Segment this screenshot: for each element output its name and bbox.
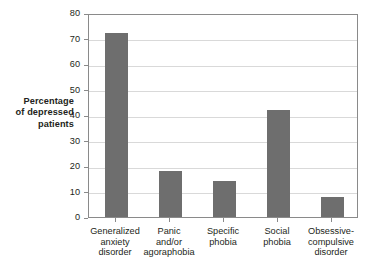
bar	[159, 171, 182, 217]
x-axis-category-label-line: compulsive	[294, 237, 368, 248]
y-tick-label: 50	[54, 86, 80, 95]
y-tick-label: 0	[54, 213, 80, 222]
y-tick-label: 70	[54, 35, 80, 44]
x-tick-mark	[277, 218, 278, 222]
x-tick-mark	[223, 218, 224, 222]
y-tick-mark	[84, 39, 88, 40]
plot-area	[88, 14, 358, 218]
y-tick-mark	[84, 116, 88, 117]
y-tick-label: 10	[54, 188, 80, 197]
y-tick-label: 20	[54, 162, 80, 171]
y-tick-label: 40	[54, 111, 80, 120]
y-tick-mark	[84, 141, 88, 142]
y-tick-mark	[84, 90, 88, 91]
y-tick-label: 60	[54, 60, 80, 69]
bar-chart-figure: Percentage of depressed patients 0102030…	[0, 0, 368, 272]
bar	[105, 33, 128, 217]
y-tick-mark	[84, 167, 88, 168]
x-tick-mark	[331, 218, 332, 222]
y-tick-label: 30	[54, 137, 80, 146]
x-axis-category-label-line: agoraphobia	[132, 247, 206, 258]
bar	[321, 197, 344, 217]
y-tick-mark	[84, 192, 88, 193]
x-tick-mark	[169, 218, 170, 222]
y-tick-mark	[84, 14, 88, 15]
y-tick-mark	[84, 218, 88, 219]
x-axis-category-label: Obsessive-compulsivedisorder	[294, 226, 368, 258]
y-axis-title-line-1: Percentage	[0, 96, 74, 107]
y-tick-label: 80	[54, 9, 80, 18]
x-axis-category-label-line: Obsessive-	[294, 226, 368, 237]
bar	[267, 110, 290, 217]
bar-series	[89, 15, 357, 217]
x-axis-category-label-line: disorder	[294, 247, 368, 258]
y-tick-mark	[84, 65, 88, 66]
x-tick-mark	[115, 218, 116, 222]
bar	[213, 181, 236, 217]
